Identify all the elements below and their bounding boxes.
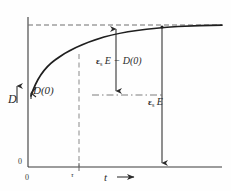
difference-label: εs E − D(0) bbox=[96, 56, 142, 67]
epsilon-subscript: s bbox=[100, 60, 102, 67]
initial-value-label: D(0) bbox=[33, 85, 54, 96]
total-measure-arrow bbox=[161, 26, 164, 164]
y-axis-zero-tick-label: 0 bbox=[18, 158, 22, 166]
x-axis-tau-tick-label: τ bbox=[71, 172, 74, 179]
epsilon-subscript-total: s bbox=[152, 101, 154, 108]
axis-lines bbox=[28, 17, 222, 167]
difference-label-rest: E − D(0) bbox=[105, 55, 142, 66]
chart-figure: D D(0) εs E − D(0) εs E t 0 0 τ bbox=[0, 0, 231, 191]
x-axis-label: t bbox=[104, 172, 107, 183]
total-label: εs E bbox=[148, 97, 163, 108]
total-label-rest: E bbox=[157, 96, 163, 107]
x-axis-zero-tick-label: 0 bbox=[25, 174, 29, 182]
y-axis-label: D bbox=[8, 93, 17, 105]
